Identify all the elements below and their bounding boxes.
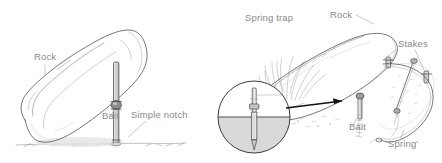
deadfall-trap-figure: Rock Bait Simple notch: [0, 0, 442, 163]
inset-magnified-stake: [218, 81, 290, 153]
label-rock-right: Rock: [330, 9, 352, 20]
label-spring-trap-title: Spring trap: [245, 12, 293, 23]
figure-canvas: Rock Bait Simple notch: [0, 0, 442, 163]
label-stakes: Stakes: [398, 38, 428, 49]
label-rock-left: Rock: [34, 51, 56, 62]
label-simple-notch: Simple notch: [131, 109, 188, 120]
label-bait-right: Bait: [349, 121, 366, 132]
notch-knob-left: [111, 101, 121, 110]
label-spring: 'Spring': [386, 138, 418, 149]
label-bait-left: Bait: [102, 110, 119, 121]
